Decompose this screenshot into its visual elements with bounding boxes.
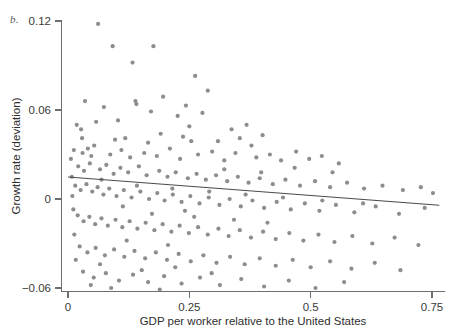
data-point xyxy=(179,281,183,285)
data-point xyxy=(262,284,266,288)
data-point xyxy=(128,155,132,159)
data-point xyxy=(89,283,93,287)
data-point xyxy=(107,187,111,191)
data-point xyxy=(80,151,84,155)
y-tick-label: 0.06 xyxy=(29,104,51,116)
data-point xyxy=(170,187,174,191)
data-point xyxy=(181,135,185,139)
data-point xyxy=(261,133,265,137)
data-point xyxy=(85,250,89,254)
data-point xyxy=(287,278,291,282)
data-point xyxy=(123,136,127,140)
data-point xyxy=(93,222,97,226)
data-point xyxy=(143,256,147,260)
data-point xyxy=(90,189,94,193)
data-point xyxy=(196,225,200,229)
data-point xyxy=(189,139,193,143)
data-point xyxy=(83,99,87,103)
data-point xyxy=(145,173,149,177)
data-point xyxy=(328,259,332,263)
data-point xyxy=(135,227,139,231)
data-point xyxy=(81,219,85,223)
y-axis-tick-labels: −0.0600.060.12 xyxy=(22,15,51,294)
data-point xyxy=(188,194,192,198)
data-point xyxy=(218,283,222,287)
data-point xyxy=(283,178,287,182)
data-point xyxy=(249,235,253,239)
data-point xyxy=(126,170,130,174)
data-point xyxy=(104,163,108,167)
data-point xyxy=(200,111,204,115)
data-point xyxy=(151,44,155,48)
data-point xyxy=(362,187,366,191)
data-point xyxy=(137,164,141,168)
data-point xyxy=(165,258,169,262)
data-point xyxy=(271,182,275,186)
data-point xyxy=(128,219,132,223)
data-point xyxy=(259,170,263,174)
data-point xyxy=(349,267,353,271)
data-point xyxy=(122,188,126,192)
data-point xyxy=(245,123,249,127)
data-point xyxy=(193,74,197,78)
data-point xyxy=(120,225,124,229)
data-point xyxy=(138,189,142,193)
data-point xyxy=(238,136,242,140)
data-point xyxy=(130,60,134,64)
data-point xyxy=(274,237,278,241)
data-point xyxy=(158,287,162,291)
data-point xyxy=(301,238,305,242)
data-point xyxy=(171,192,175,196)
data-point xyxy=(109,286,113,290)
data-point xyxy=(166,243,170,247)
data-point xyxy=(98,262,102,266)
data-point xyxy=(332,240,336,244)
data-point xyxy=(125,238,129,242)
data-point xyxy=(243,262,247,266)
data-point xyxy=(189,259,193,263)
data-point xyxy=(162,198,166,202)
data-point xyxy=(334,203,338,207)
data-point xyxy=(88,161,92,165)
data-point xyxy=(119,148,123,152)
data-point xyxy=(210,149,214,153)
data-point xyxy=(81,270,85,274)
data-point xyxy=(244,192,248,196)
data-point xyxy=(111,44,115,48)
data-point xyxy=(174,170,178,174)
data-point xyxy=(84,182,88,186)
data-point xyxy=(82,169,86,173)
x-tick-label: 0.25 xyxy=(178,301,200,313)
data-point xyxy=(183,209,187,213)
data-point xyxy=(101,192,105,196)
data-point xyxy=(303,201,307,205)
data-point xyxy=(89,154,93,158)
data-point xyxy=(117,278,121,282)
data-point xyxy=(222,158,226,162)
data-point xyxy=(228,197,232,201)
data-point xyxy=(187,231,191,235)
data-point xyxy=(178,224,182,228)
data-point xyxy=(122,255,126,259)
data-point xyxy=(161,95,165,99)
data-point xyxy=(146,141,150,145)
data-point xyxy=(195,172,199,176)
data-point xyxy=(186,176,190,180)
data-point xyxy=(361,201,365,205)
data-point xyxy=(214,261,218,265)
data-point xyxy=(76,213,80,217)
data-point xyxy=(76,164,80,168)
data-point xyxy=(320,198,324,202)
data-point xyxy=(161,222,165,226)
data-point xyxy=(206,233,210,237)
data-point xyxy=(254,155,258,159)
data-point xyxy=(309,265,313,269)
data-point xyxy=(103,253,107,257)
data-point xyxy=(317,209,321,213)
data-point xyxy=(147,197,151,201)
data-point xyxy=(207,195,211,199)
x-tick-label: 0.75 xyxy=(421,301,443,313)
data-points-layer xyxy=(69,22,435,292)
data-point xyxy=(71,207,75,211)
x-axis-title: GDP per worker relative to the United St… xyxy=(140,315,367,327)
